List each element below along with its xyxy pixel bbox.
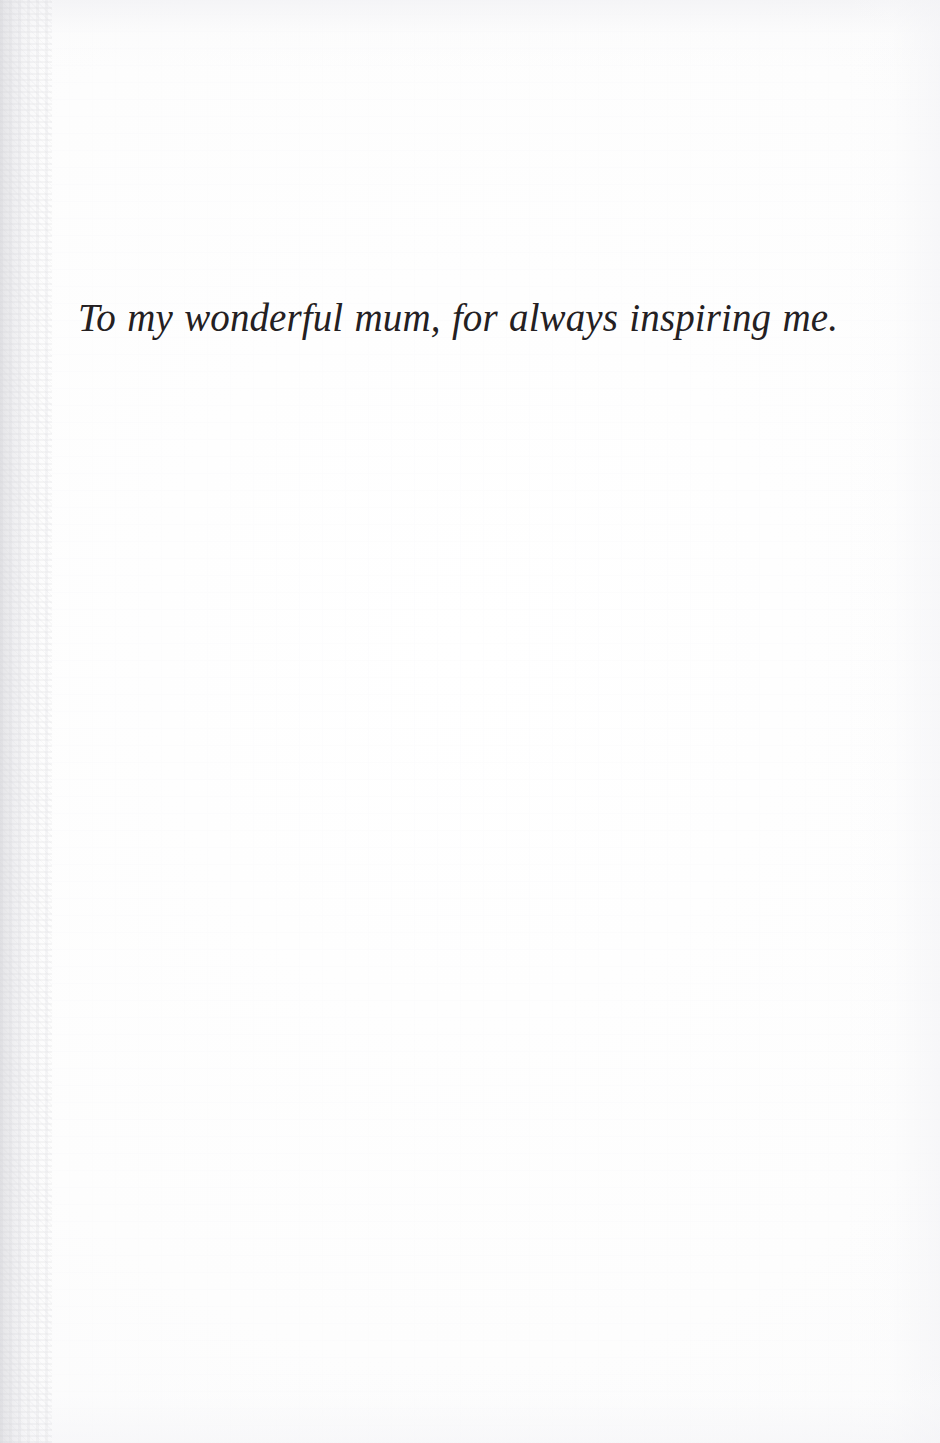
scan-noise-overlay <box>0 0 940 1443</box>
dedication-text: To my wonderful mum, for always inspirin… <box>78 296 838 341</box>
page-gutter-shadow-left <box>0 0 58 1443</box>
page-edge-shadow-bottom <box>0 1358 940 1443</box>
paper-tone-overlay <box>0 0 940 1443</box>
page-edge-shadow-top <box>0 0 940 70</box>
page-edge-shadow-right <box>845 0 940 1443</box>
dedication-page: To my wonderful mum, for always inspirin… <box>0 0 940 1443</box>
page-gutter-texture <box>0 0 52 1443</box>
dedication-block: To my wonderful mum, for always inspirin… <box>0 296 940 341</box>
